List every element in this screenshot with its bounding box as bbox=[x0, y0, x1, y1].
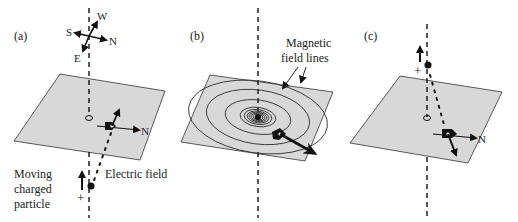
wire-center-b bbox=[255, 114, 261, 120]
charge-sign-c: + bbox=[414, 63, 421, 78]
compass-north-label: N bbox=[109, 35, 117, 47]
charge-sign-a: + bbox=[77, 190, 84, 205]
field-pointer-1 bbox=[283, 67, 298, 88]
panel-a-label: (a) bbox=[14, 29, 27, 43]
figure: (a) W S N E N + bbox=[0, 0, 518, 222]
panel-c-label: (c) bbox=[364, 29, 377, 43]
compass-east-label: E bbox=[74, 52, 81, 64]
plate-c bbox=[350, 76, 502, 163]
panel-b-label: (b) bbox=[190, 29, 204, 43]
panel-a: (a) W S N E N + bbox=[14, 8, 167, 218]
compass-south-label: S bbox=[66, 26, 72, 38]
field-pointer-2 bbox=[301, 67, 306, 82]
charged-particle-c bbox=[425, 62, 432, 69]
compass-west-label: W bbox=[97, 10, 108, 22]
panel-b: (b) Magnetic field lines bbox=[181, 8, 333, 218]
particle-label-line-3: particle bbox=[14, 197, 50, 211]
panel-c: (c) + N bbox=[350, 24, 502, 218]
electric-field-label: Electric field bbox=[105, 167, 167, 181]
needle-north-label-c: N bbox=[478, 133, 486, 145]
plate-a bbox=[14, 74, 165, 160]
charged-particle-a bbox=[88, 183, 95, 190]
needle-north-label-a: N bbox=[141, 125, 149, 137]
field-label-line-1: Magnetic bbox=[286, 36, 331, 50]
particle-label-line-1: Moving bbox=[14, 167, 52, 181]
compass-rose: W S N E bbox=[66, 10, 117, 64]
particle-label-line-2: charged bbox=[14, 182, 52, 196]
field-label-line-2: field lines bbox=[281, 51, 329, 65]
